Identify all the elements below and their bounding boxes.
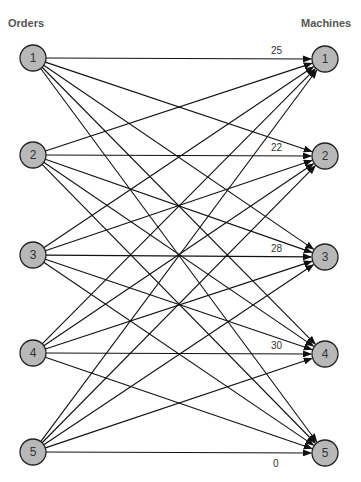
order-node-label: 3 [30, 248, 37, 262]
order-node-label: 2 [30, 148, 37, 162]
order-node-label: 5 [30, 445, 37, 459]
edges-group [41, 58, 317, 453]
order-node-2: 2 [20, 142, 46, 168]
machine-node-3: 3 [312, 244, 338, 270]
graph-canvas: 252228300 1234512345 [0, 0, 361, 482]
machine-node-1: 1 [312, 46, 338, 72]
edge-order-3-machine-1 [44, 67, 314, 248]
order-node-4: 4 [20, 340, 46, 366]
order-node-5: 5 [20, 439, 46, 465]
machine-capacity-label: 30 [271, 340, 283, 351]
machine-node-4: 4 [312, 341, 338, 367]
machine-capacity-label: 0 [273, 458, 279, 469]
edge-order-4-machine-4 [46, 353, 311, 354]
machine-capacity-label: 22 [271, 142, 283, 153]
order-node-label: 1 [30, 51, 37, 65]
bipartite-diagram: Orders Machines 252228300 1234512345 [0, 0, 361, 482]
machine-capacity-label: 25 [271, 45, 283, 56]
order-node-1: 1 [20, 45, 46, 71]
machine-node-5: 5 [312, 440, 338, 466]
machine-node-label: 2 [322, 149, 329, 163]
machine-node-label: 4 [322, 347, 329, 361]
edge-order-1-machine-1 [46, 58, 311, 59]
order-node-label: 4 [30, 346, 37, 360]
edge-order-3-machine-2 [45, 160, 311, 250]
machine-node-label: 5 [322, 446, 329, 460]
machine-node-2: 2 [312, 143, 338, 169]
machine-node-label: 1 [322, 52, 329, 66]
edge-order-5-machine-5 [46, 452, 311, 453]
machine-capacity-label: 28 [271, 243, 283, 254]
machine-node-label: 3 [322, 250, 329, 264]
order-node-3: 3 [20, 242, 46, 268]
edge-order-2-machine-2 [46, 155, 311, 156]
